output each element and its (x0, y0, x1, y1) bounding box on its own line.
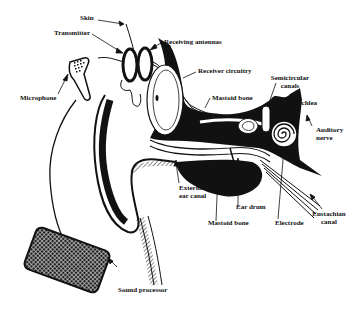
label-skin: Skin (80, 14, 94, 22)
label-external-ear-canal: External ear canal (179, 184, 206, 200)
label-eustachian-canal: Eustachian canal (308, 210, 350, 226)
cochlea (271, 121, 297, 147)
transmitter-cable (98, 57, 124, 62)
microphone (69, 58, 90, 100)
label-eustachian-canal-line1: Eustachian (308, 210, 350, 218)
label-receiver-circuitry: Receiver circuitry (198, 67, 252, 75)
label-microphone: Microphone (20, 94, 56, 102)
label-auditory-nerve: Auditory nerve (316, 126, 343, 142)
label-semicircular-canals-line1: Semicircular (270, 74, 310, 82)
sound-processor (23, 226, 111, 294)
label-semicircular-canals: Semicircular canals (270, 74, 310, 90)
label-external-ear-canal-line2: ear canal (179, 192, 206, 200)
label-auditory-nerve-line2: nerve (316, 134, 343, 142)
processor-cable (50, 100, 76, 244)
label-transmitter: Transmitter (54, 29, 90, 37)
cochlear-implant-diagram: Skin Transmitter Receiving antennas Rece… (0, 0, 364, 311)
label-external-ear-canal-line1: External (179, 184, 206, 192)
label-mastoid-bone-bottom: Mastoid bone (208, 219, 249, 227)
label-receiving-antennas: Receiving antennas (164, 38, 222, 46)
label-sound-processor: Sound processor (118, 286, 167, 294)
label-auditory-nerve-line1: Auditory (316, 126, 343, 134)
receiver-circuitry (147, 65, 183, 135)
label-semicircular-canals-line2: canals (270, 82, 310, 90)
diagram-artwork (0, 0, 364, 311)
receiving-antenna-coil (138, 48, 152, 80)
label-ear-drum: Ear drum (236, 203, 266, 211)
label-electrode: Electrode (275, 219, 304, 227)
label-cochlea: Cochlea (293, 99, 317, 107)
label-mastoid-bone-top: Mastoid bone (212, 94, 253, 102)
label-eustachian-canal-line2: canal (308, 218, 350, 226)
